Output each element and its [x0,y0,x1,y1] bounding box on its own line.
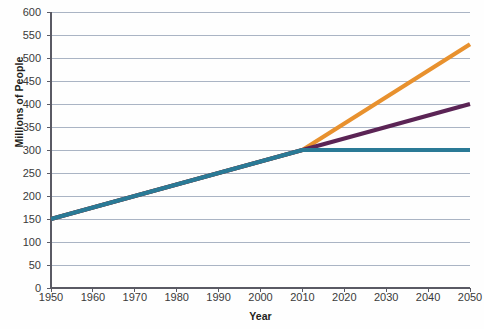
population-projection-chart: Millions of People Year 6005505004504003… [0,0,484,329]
data-series [51,44,470,219]
gridlines [51,12,470,265]
plot-area [0,0,484,329]
